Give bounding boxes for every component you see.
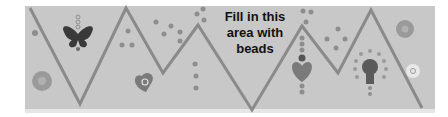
heart-icon	[135, 73, 153, 92]
bead-dot	[343, 37, 348, 42]
bead-dot	[154, 20, 159, 25]
bead-dot	[126, 29, 131, 34]
instruction-line-2: area with	[205, 25, 305, 41]
white-bead-icon	[406, 64, 420, 78]
bead-dot	[334, 46, 339, 51]
bead-dot	[178, 39, 183, 44]
bead-dot	[194, 74, 199, 79]
bead-dot	[162, 32, 167, 37]
butterfly-icon	[63, 15, 93, 51]
flower-icon	[32, 71, 52, 91]
bead-dot	[130, 43, 135, 48]
instruction-line-1: Fill in this	[205, 9, 305, 25]
flower-icon-small	[396, 20, 414, 38]
bead-dot	[325, 37, 330, 42]
bead-dot	[120, 43, 125, 48]
bead-dot	[169, 24, 174, 29]
bead-dot	[194, 86, 199, 91]
bead-dot	[178, 30, 183, 35]
bead-dot	[193, 62, 198, 67]
light-bulb-icon	[353, 49, 388, 96]
bead-dot	[336, 27, 341, 32]
bead-dot	[32, 30, 38, 36]
instruction-line-3: beads	[205, 41, 305, 57]
instruction-text: Fill in this area with beads	[205, 9, 305, 57]
bead-dot	[195, 12, 200, 17]
